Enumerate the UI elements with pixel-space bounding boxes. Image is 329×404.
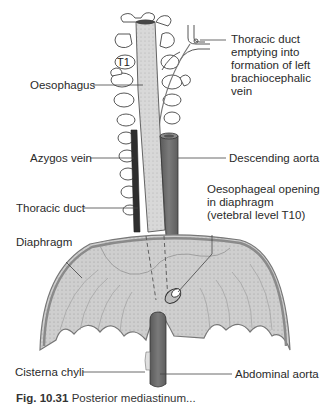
label-descending-aorta: Descending aorta: [229, 152, 319, 165]
azygos-vein: [131, 130, 140, 232]
oesophagus: [136, 20, 165, 233]
label-cisterna-chyli: Cisterna chyli: [15, 366, 84, 379]
label-oesophageal-opening: Oesophageal opening in diaphragm (vetebr…: [207, 183, 320, 222]
label-line: formation of left: [231, 59, 311, 72]
label-line: Oesophageal opening: [207, 183, 320, 196]
figure-caption: Fig. 10.31 Posterior mediastinum...: [16, 392, 196, 404]
label-line: emptying into: [231, 46, 311, 59]
caption-text: Posterior mediastinum...: [72, 392, 196, 404]
label-diaphragm: Diaphragm: [16, 236, 72, 249]
label-line: brachiocephalic: [231, 72, 311, 85]
label-azygos-vein: Azygos vein: [30, 152, 92, 165]
label-thoracic-duct-emptying: Thoracic duct emptying into formation of…: [231, 33, 311, 98]
vertebra-t1-label: T1: [117, 56, 130, 68]
label-oesophagus: Oesophagus: [30, 79, 95, 92]
label-line: in diaphragm: [207, 196, 320, 209]
label-thoracic-duct: Thoracic duct: [16, 202, 85, 215]
label-line: vein: [231, 85, 311, 98]
label-line: Thoracic duct: [231, 33, 311, 46]
label-abdominal-aorta: Abdominal aorta: [235, 368, 319, 381]
caption-number: Fig. 10.31: [16, 392, 68, 404]
label-line: (vetebral level T10): [207, 209, 320, 222]
